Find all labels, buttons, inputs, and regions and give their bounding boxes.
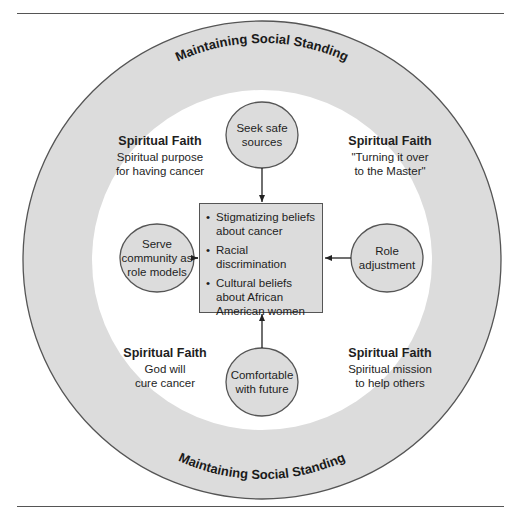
node-top-seek-safe-sources: Seek safe sources xyxy=(226,104,298,166)
quadrant-bottom-right: Spiritual Faith Spiritual mission to hel… xyxy=(330,346,450,390)
quadrant-heading: Spiritual Faith xyxy=(100,134,220,148)
quadrant-line: Spiritual mission xyxy=(330,362,450,376)
quadrant-line: cure cancer xyxy=(105,376,225,390)
center-item: Stigmatizing beliefs about cancer xyxy=(206,210,318,238)
quadrant-top-left: Spiritual Faith Spiritual purpose for ha… xyxy=(100,134,220,178)
node-line: Serve xyxy=(142,237,172,251)
quadrant-heading: Spiritual Faith xyxy=(105,346,225,360)
node-right-role-adjustment: Role adjustment xyxy=(351,226,423,290)
node-line: with future xyxy=(235,382,288,396)
quadrant-heading: Spiritual Faith xyxy=(330,134,450,148)
center-item: Racial discrimination xyxy=(206,243,318,271)
quadrant-line: Spiritual purpose xyxy=(100,150,220,164)
node-line: Role xyxy=(375,244,399,258)
center-item: Cultural beliefs about African American … xyxy=(206,276,318,318)
quadrant-line: God will xyxy=(105,362,225,376)
quadrant-heading: Spiritual Faith xyxy=(330,346,450,360)
node-line: sources xyxy=(242,135,282,149)
node-line: role models xyxy=(127,265,186,279)
node-line: Seek safe xyxy=(236,121,287,135)
node-left-serve-community: Serve community as role models xyxy=(120,226,194,290)
quadrant-line: to the Master" xyxy=(330,164,450,178)
node-line: community as xyxy=(122,251,193,265)
node-line: adjustment xyxy=(359,258,415,272)
quadrant-top-right: Spiritual Faith "Turning it over to the … xyxy=(330,134,450,178)
quadrant-line: to help others xyxy=(330,376,450,390)
node-bottom-comfortable-with-future: Comfortable with future xyxy=(226,350,298,414)
node-line: Comfortable xyxy=(231,368,294,382)
quadrant-line: "Turning it over xyxy=(330,150,450,164)
quadrant-line: for having cancer xyxy=(100,164,220,178)
center-list: Stigmatizing beliefs about cancer Racial… xyxy=(206,210,318,318)
center-box: Stigmatizing beliefs about cancer Racial… xyxy=(199,203,323,313)
quadrant-bottom-left: Spiritual Faith God will cure cancer xyxy=(105,346,225,390)
